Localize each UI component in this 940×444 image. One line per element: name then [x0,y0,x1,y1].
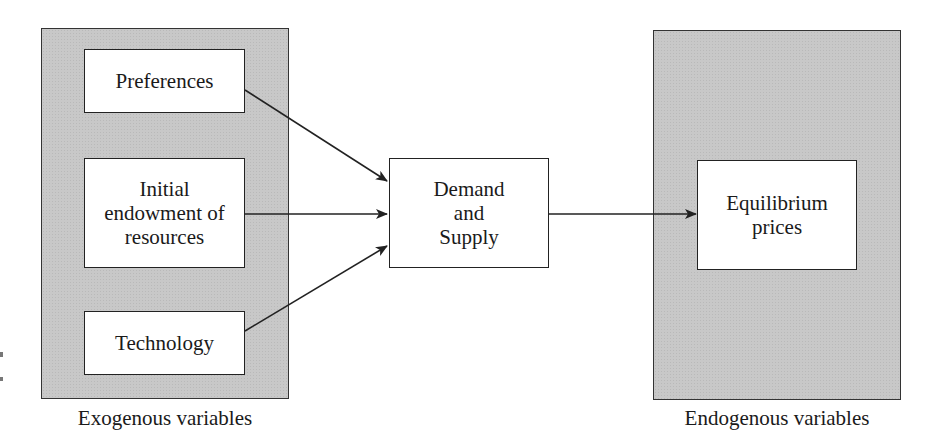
scan-artifact [0,352,3,357]
arrows-layer [0,0,940,444]
scan-artifact [0,377,3,381]
arrow-preferences-to-demand [245,90,387,181]
arrow-technology-to-demand [245,246,387,331]
